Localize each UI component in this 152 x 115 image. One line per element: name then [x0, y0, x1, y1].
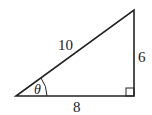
right-triangle-diagram: 10 6 8 θ [0, 0, 152, 115]
angle-label: θ [34, 82, 41, 97]
right-angle-marker [126, 88, 134, 96]
hypotenuse-label: 10 [58, 37, 73, 53]
opposite-label: 6 [138, 49, 146, 65]
adjacent-label: 8 [73, 99, 81, 115]
angle-arc [41, 78, 47, 96]
